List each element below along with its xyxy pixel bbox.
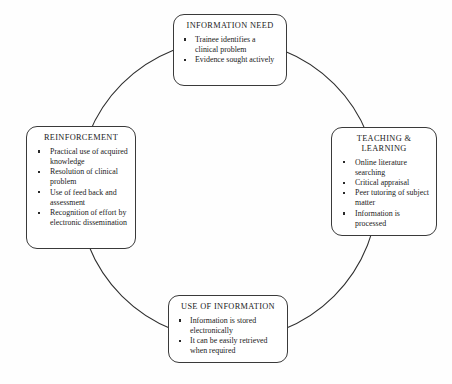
list-item: Use of feed back and assessment [33,188,129,208]
node-reinforcement-bullets: Practical use of acquired knowledge Reso… [33,147,129,228]
node-teaching-learning-title: TEACHING & LEARNING [338,134,430,154]
list-item: Online literature searching [338,158,430,178]
node-use-of-information-bullets: Information is stored electronically It … [175,316,281,356]
list-item: Practical use of acquired knowledge [33,147,129,167]
node-reinforcement-title: REINFORCEMENT [33,133,129,143]
node-information-need-bullets: Trainee identifies a clinical problem Ev… [180,35,280,65]
list-item: Resolution of clinical problem [33,167,129,187]
node-use-of-information[interactable]: USE OF INFORMATION Information is stored… [168,295,288,363]
list-item: Information is stored electronically [175,316,281,336]
node-teaching-learning[interactable]: TEACHING & LEARNING Online literature se… [331,127,437,236]
node-information-need[interactable]: INFORMATION NEED Trainee identifies a cl… [173,14,287,86]
list-item: Information is processed [338,209,430,229]
list-item: Recognition of effort by electronic diss… [33,208,129,228]
node-reinforcement[interactable]: REINFORCEMENT Practical use of acquired … [26,126,136,249]
list-item: Evidence sought actively [180,55,280,65]
list-item: It can be easily retrieved when required [175,336,281,356]
node-information-need-title: INFORMATION NEED [180,21,280,31]
list-item: Trainee identifies a clinical problem [180,35,280,55]
list-item: Critical appraisal [338,178,430,188]
node-teaching-learning-bullets: Online literature searching Critical app… [338,158,430,229]
node-use-of-information-title: USE OF INFORMATION [175,302,281,312]
list-item: Peer tutoring of subject matter [338,188,430,208]
diagram-canvas: INFORMATION NEED Trainee identifies a cl… [0,0,452,384]
